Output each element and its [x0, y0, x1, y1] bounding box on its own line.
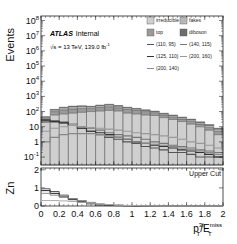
x-tick-label: 1.8 [199, 209, 212, 219]
atlas-label: ATLASInternal [49, 30, 100, 37]
x-tick-label: 0.8 [108, 209, 121, 219]
legend-entry: diboson [189, 29, 207, 35]
histogram-chart: 00.20.40.60.811.21.41.61.8210-1110102103… [0, 0, 237, 244]
y-tick-label: 108 [26, 15, 40, 26]
x-tick-label: 0.2 [53, 209, 66, 219]
y-axis-label: Events [4, 28, 16, 62]
upper-cut-label: Upper Cut [189, 170, 221, 178]
x-tick-label: 1 [129, 209, 134, 219]
x-tick-label: 1.4 [162, 209, 175, 219]
legend-entry: (110, 95) [156, 41, 176, 47]
y-tick-label: 102 [26, 106, 40, 117]
energy-label: √s = 13 TeV, 139.0 fb-1 [50, 42, 111, 50]
legend-entry: (125, 110) [156, 53, 179, 59]
legend-entry: irreducible [156, 17, 179, 23]
y-tick-label: 10-1 [24, 151, 40, 162]
y-tick-label: 105 [26, 60, 40, 71]
zn-axis-label: Zn [4, 182, 16, 195]
legend-entry: top [156, 29, 163, 35]
x-tick-label: 1.6 [180, 209, 193, 219]
legend-entry: (200, 160) [189, 53, 212, 59]
legend-entry: fakes [189, 17, 201, 23]
x-tick-label: 2 [220, 209, 225, 219]
y-tick-label: 10 [29, 122, 39, 132]
x-tick-label: 0.4 [71, 209, 84, 219]
x-tick-label: 0.6 [89, 209, 102, 219]
y-tick-label: 1 [34, 137, 39, 147]
zn-tick-label: 2 [34, 165, 39, 175]
y-tick-label: 106 [26, 45, 40, 56]
x-tick-label: 0 [38, 209, 43, 219]
legend-entry: (200, 140) [156, 65, 179, 71]
y-tick-label: 107 [26, 30, 40, 41]
legend-entry: (140, 115) [189, 41, 212, 47]
y-tick-label: 103 [26, 90, 40, 101]
y-tick-label: 104 [26, 75, 40, 86]
zn-tick-label: 1 [34, 183, 39, 193]
x-tick-label: 1.2 [144, 209, 157, 219]
zn-tick-label: 0 [34, 201, 39, 211]
legend: irreduciblefakestopdiboson(110, 95)(140,… [147, 17, 212, 71]
x-axis-label: p3lT/EmissT [193, 222, 222, 237]
